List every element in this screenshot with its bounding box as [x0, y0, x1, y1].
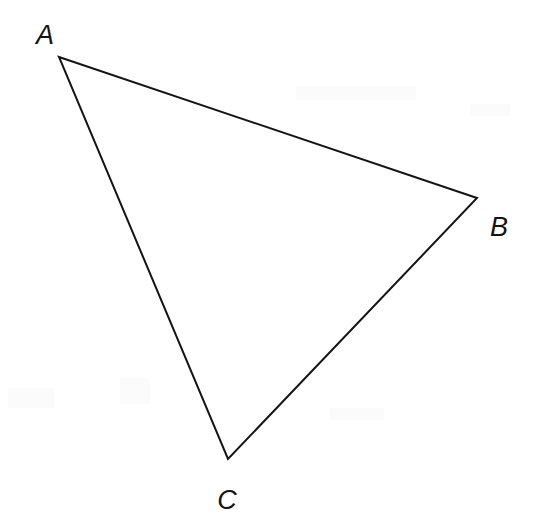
vertex-label-b: B — [490, 214, 508, 241]
vertex-label-c: C — [217, 487, 237, 514]
triangle-shape — [59, 57, 477, 459]
triangle-svg — [0, 0, 544, 516]
vertex-label-a: A — [36, 22, 54, 49]
triangle-figure-canvas: A B C — [0, 0, 544, 516]
